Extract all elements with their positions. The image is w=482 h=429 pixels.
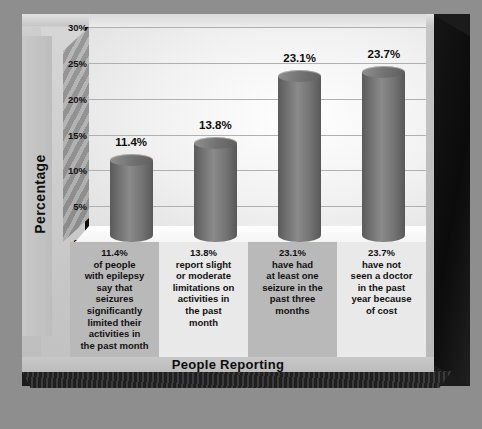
chart-screenshot: Percentage 30%25%20%15%10%5%0% 11.4%13.8… [0,0,482,429]
bar-body [194,143,237,242]
category-band: 23.1% have had at least one seizure in t… [248,242,337,357]
y-axis-tick: 15% [45,129,87,140]
bar-cylinder[interactable] [278,76,321,242]
bar-data-label: 23.7% [342,48,426,60]
y-axis-tick: 30% [45,22,87,33]
bar-cylinder[interactable] [362,72,405,242]
frame-right-bevel [432,14,470,386]
plot-wall-top-cap [89,14,426,28]
category-band: 11.4% of people with epilepsy say that s… [70,242,159,357]
category-label: 23.7% have not seen a doctor in the past… [337,247,426,317]
bar-cylinder[interactable] [194,143,237,242]
y-axis-tick: 20% [45,93,87,104]
y-axis-tick-labels: 30%25%20%15%10%5%0% [45,27,87,242]
bar-column[interactable] [89,160,173,242]
y-axis-tick: 10% [45,165,87,176]
category-band: 13.8% report slight or moderate limitati… [159,242,248,357]
category-label: 11.4% of people with epilepsy say that s… [70,247,159,351]
frame-bottom-bevel [22,371,452,388]
bar-data-label: 23.1% [258,52,342,64]
bar-column[interactable] [258,76,342,242]
category-label: 23.1% have had at least one seizure in t… [248,247,337,317]
bar-top-ellipse [194,137,237,149]
bar-data-label: 11.4% [89,136,173,148]
x-axis-title: People Reporting [22,357,434,372]
bar-cylinder[interactable] [110,160,153,242]
bar-body [362,72,405,242]
category-label: 13.8% report slight or moderate limitati… [159,247,248,328]
category-label-bands: 11.4% of people with epilepsy say that s… [70,242,426,357]
bar-body [278,76,321,242]
bar-data-label: 13.8% [173,119,257,131]
category-band: 23.7% have not seen a doctor in the past… [337,242,426,357]
y-axis-tick: 5% [45,201,87,212]
y-axis-tick: 25% [45,57,87,68]
bar-body [110,160,153,242]
bar-column[interactable] [173,143,257,242]
bar-series: 11.4%13.8%23.1%23.7% [89,27,426,242]
bar-column[interactable] [342,72,426,242]
